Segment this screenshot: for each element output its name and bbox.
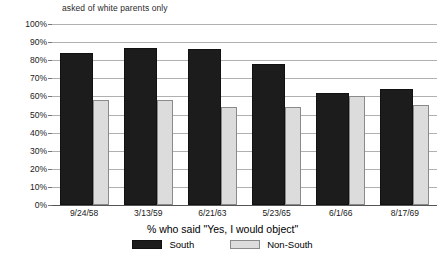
bar-chart: asked of white parents only 0%10%20%30%4… — [0, 0, 445, 262]
bar-south — [188, 49, 221, 205]
bar-nonsouth — [413, 105, 429, 205]
x-axis-tick-label: 5/23/65 — [262, 208, 290, 218]
x-axis-tick-label: 6/1/66 — [329, 208, 353, 218]
bar-south — [316, 93, 349, 205]
bar-nonsouth — [157, 100, 173, 205]
bars-layer — [52, 24, 437, 205]
y-axis-tick-label: 10% — [4, 182, 47, 192]
y-axis-tick-label: 50% — [4, 110, 47, 120]
x-axis-tick-label: 9/24/58 — [70, 208, 98, 218]
bar-nonsouth — [285, 107, 301, 205]
y-axis-tick-label: 40% — [4, 128, 47, 138]
y-axis-tick-label: 100% — [4, 19, 47, 29]
x-axis-tick-label: 3/13/59 — [134, 208, 162, 218]
bar-group — [180, 24, 244, 205]
bar-nonsouth — [349, 96, 365, 205]
bar-south — [380, 89, 413, 205]
legend-swatch-nonsouth — [230, 240, 260, 249]
legend-label-nonsouth: Non-South — [267, 239, 312, 250]
legend-item-nonsouth: Non-South — [230, 239, 312, 250]
x-axis-tick-label: 6/21/63 — [198, 208, 226, 218]
chart-legend: South Non-South — [0, 239, 445, 250]
legend-swatch-south — [132, 240, 162, 249]
bar-group — [309, 24, 373, 205]
legend-item-south: South — [132, 239, 194, 250]
bar-nonsouth — [221, 107, 237, 205]
gridline — [52, 205, 437, 206]
y-axis-tick-label: 80% — [4, 55, 47, 65]
bar-nonsouth — [93, 100, 109, 205]
y-axis-tick-label: 90% — [4, 37, 47, 47]
axis-title: % who said "Yes, I would object" — [0, 223, 445, 235]
bar-group — [245, 24, 309, 205]
y-axis-tick-label: 70% — [4, 73, 47, 83]
x-axis-tick-label: 8/17/69 — [391, 208, 419, 218]
bar-south — [252, 64, 285, 205]
bar-group — [373, 24, 437, 205]
x-axis-labels: 9/24/583/13/596/21/635/23/656/1/668/17/6… — [52, 208, 437, 222]
y-axis-tick-label: 30% — [4, 146, 47, 156]
bar-south — [124, 48, 157, 205]
y-axis-tick-label: 20% — [4, 164, 47, 174]
plot-area — [52, 24, 437, 205]
bar-group — [52, 24, 116, 205]
bar-group — [116, 24, 180, 205]
legend-label-south: South — [169, 239, 194, 250]
y-axis-tick-label: 60% — [4, 91, 47, 101]
bar-south — [60, 53, 93, 205]
y-axis-tick-label: 0% — [4, 200, 47, 210]
